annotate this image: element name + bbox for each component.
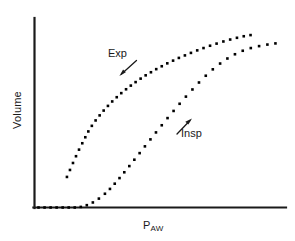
data-point [258, 45, 261, 48]
data-point [178, 57, 181, 60]
expiratory-curve [66, 34, 252, 178]
data-point [86, 204, 89, 207]
data-point [67, 206, 70, 209]
data-point [236, 37, 239, 40]
data-point [118, 177, 121, 180]
data-point [166, 117, 169, 120]
data-point [107, 105, 110, 108]
data-point [219, 62, 222, 65]
data-point [55, 206, 58, 209]
data-point [202, 47, 205, 50]
data-point [98, 114, 101, 117]
data-point [49, 206, 52, 209]
data-point [109, 188, 112, 191]
data-point [144, 74, 147, 77]
data-point [166, 62, 169, 65]
data-point [37, 206, 40, 209]
data-point [102, 109, 105, 112]
data-point [120, 92, 123, 95]
pressure-volume-chart: Volume PAW Exp Insp [0, 0, 295, 241]
data-point [128, 165, 131, 168]
axes [33, 18, 286, 208]
exp-arrow-icon [119, 61, 136, 77]
data-point [184, 54, 187, 57]
data-point [215, 42, 218, 45]
data-point [91, 125, 94, 128]
data-point [204, 74, 207, 77]
data-point [73, 206, 76, 209]
x-axis-label-main: P [143, 219, 151, 231]
data-point [178, 102, 181, 105]
data-point [160, 124, 163, 127]
data-point [104, 192, 107, 195]
data-point [87, 130, 90, 133]
data-point [155, 68, 158, 71]
data-point [191, 88, 194, 91]
data-point [149, 138, 152, 141]
x-axis-label-subscript: AW [151, 224, 164, 233]
data-point [78, 148, 81, 151]
data-point [274, 42, 277, 45]
data-point [242, 35, 245, 38]
data-point [134, 81, 137, 84]
data-point [241, 49, 244, 52]
data-point [72, 162, 75, 165]
data-point [209, 44, 212, 47]
data-point [66, 176, 69, 179]
data-point [111, 100, 114, 103]
data-point [144, 145, 147, 148]
data-point [160, 65, 163, 68]
exp-curve-label: Exp [108, 47, 127, 59]
data-point [138, 152, 141, 155]
inspiratory-curve [37, 42, 277, 209]
data-point [69, 169, 72, 172]
data-point [79, 206, 82, 209]
data-point [113, 182, 116, 185]
data-point [234, 53, 237, 56]
x-axis-label: PAW [143, 219, 163, 231]
data-point [198, 81, 201, 84]
data-point [212, 68, 215, 71]
data-point [226, 57, 229, 60]
data-point [172, 59, 175, 62]
data-point [185, 95, 188, 98]
data-point [130, 84, 133, 87]
data-point [123, 171, 126, 174]
data-point [172, 110, 175, 113]
data-point [61, 206, 64, 209]
data-point [222, 40, 225, 43]
data-point [81, 142, 84, 145]
data-point [75, 155, 78, 158]
data-point [43, 206, 46, 209]
data-point [190, 52, 193, 55]
data-point [133, 158, 136, 161]
data-point [139, 77, 142, 80]
insp-curve-label: Insp [181, 127, 202, 139]
data-point [98, 197, 101, 200]
data-point [94, 119, 97, 122]
data-point [229, 38, 232, 41]
data-point [115, 96, 118, 99]
data-point [155, 131, 158, 134]
data-point [125, 88, 128, 91]
plot-area [0, 0, 295, 241]
data-point [249, 47, 252, 50]
y-axis-label: Volume [11, 80, 23, 140]
data-point [84, 136, 87, 139]
data-point [249, 34, 252, 37]
data-point [150, 71, 153, 74]
data-point [266, 43, 269, 46]
data-point [196, 49, 199, 52]
data-point [92, 201, 95, 204]
